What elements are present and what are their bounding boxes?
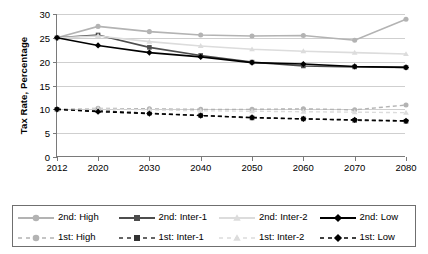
data-point-circle bbox=[403, 103, 408, 108]
x-tick-label: 2070 bbox=[344, 162, 365, 173]
x-tick-label: 2020 bbox=[87, 162, 108, 173]
data-point-diamond bbox=[333, 234, 341, 242]
data-point-circle bbox=[147, 29, 152, 34]
legend-item[interactable]: 1st: Inter-2 bbox=[214, 226, 315, 246]
data-point-circle bbox=[96, 24, 101, 29]
series-2nd-inter-2 bbox=[54, 33, 409, 56]
x-tick-mark bbox=[149, 157, 150, 161]
legend-swatch bbox=[218, 230, 256, 242]
x-tick-mark bbox=[406, 157, 407, 161]
data-point-square bbox=[134, 215, 140, 221]
y-tick-label: 5 bbox=[45, 128, 50, 139]
legend-label: 2nd: Low bbox=[360, 211, 399, 222]
y-axis-title: Tax Rate, Percentage bbox=[18, 11, 29, 161]
data-point-diamond bbox=[333, 214, 341, 222]
data-point-square bbox=[134, 235, 140, 241]
legend-label: 1st: High bbox=[58, 231, 96, 242]
data-point-circle bbox=[301, 33, 306, 38]
legend-swatch bbox=[319, 230, 357, 242]
legend-label: 2nd: Inter-2 bbox=[259, 211, 308, 222]
legend-label: 2nd: Inter-1 bbox=[159, 211, 208, 222]
x-tick-mark bbox=[57, 157, 58, 161]
x-tick-label: 2060 bbox=[293, 162, 314, 173]
x-tick-label: 2080 bbox=[395, 162, 416, 173]
x-tick-mark bbox=[201, 157, 202, 161]
series-2nd-high bbox=[54, 17, 408, 43]
data-point-diamond bbox=[95, 42, 101, 48]
data-point-circle bbox=[403, 17, 408, 22]
data-point-square bbox=[147, 45, 152, 50]
legend-item[interactable]: 1st: Low bbox=[315, 226, 416, 246]
y-tick-label: 0 bbox=[45, 152, 50, 163]
data-point-circle bbox=[198, 32, 203, 37]
legend-swatch bbox=[17, 230, 55, 242]
legend-swatch bbox=[118, 210, 156, 222]
data-point-circle bbox=[33, 215, 40, 222]
legend-swatch bbox=[319, 210, 357, 222]
y-tick-label: 20 bbox=[39, 56, 50, 67]
x-tick-mark bbox=[303, 157, 304, 161]
legend-item[interactable]: 2nd: Low bbox=[315, 206, 416, 226]
legend-swatch bbox=[17, 210, 55, 222]
x-tick-mark bbox=[355, 157, 356, 161]
legend-item[interactable]: 1st: Inter-1 bbox=[114, 226, 215, 246]
legend: 2nd: High2nd: Inter-12nd: Inter-22nd: Lo… bbox=[12, 205, 416, 247]
legend-label: 1st: Inter-2 bbox=[259, 231, 304, 242]
legend-item[interactable]: 2nd: High bbox=[13, 206, 114, 226]
chart-root: Tax Rate, Percentage 051015202530 201220… bbox=[0, 0, 428, 254]
x-tick-label: 2012 bbox=[46, 162, 67, 173]
legend-item[interactable]: 2nd: Inter-2 bbox=[214, 206, 315, 226]
x-tick-mark bbox=[252, 157, 253, 161]
x-tick-label: 2040 bbox=[190, 162, 211, 173]
legend-label: 1st: Low bbox=[360, 231, 395, 242]
x-tick-label: 2030 bbox=[139, 162, 160, 173]
legend-label: 2nd: High bbox=[58, 211, 99, 222]
x-tick-label: 2050 bbox=[241, 162, 262, 173]
x-tick-mark bbox=[98, 157, 99, 161]
data-point-diamond bbox=[146, 49, 152, 55]
y-tick-label: 30 bbox=[39, 9, 50, 20]
legend-item[interactable]: 2nd: Inter-1 bbox=[114, 206, 215, 226]
data-point-circle bbox=[249, 33, 254, 38]
y-tick-label: 15 bbox=[39, 80, 50, 91]
legend-label: 1st: Inter-1 bbox=[159, 231, 204, 242]
plot-area: 051015202530 201220202030204020502060207… bbox=[56, 14, 405, 157]
data-point-circle bbox=[352, 38, 357, 43]
legend-grid: 2nd: High2nd: Inter-12nd: Inter-22nd: Lo… bbox=[13, 206, 415, 246]
series-layer bbox=[57, 14, 406, 157]
y-tick-label: 25 bbox=[39, 32, 50, 43]
data-point-circle bbox=[33, 235, 40, 242]
y-tick-label: 10 bbox=[39, 104, 50, 115]
legend-swatch bbox=[218, 210, 256, 222]
data-point-triangle bbox=[403, 110, 409, 115]
legend-item[interactable]: 1st: High bbox=[13, 226, 114, 246]
legend-swatch bbox=[118, 230, 156, 242]
data-point-triangle bbox=[233, 234, 240, 240]
